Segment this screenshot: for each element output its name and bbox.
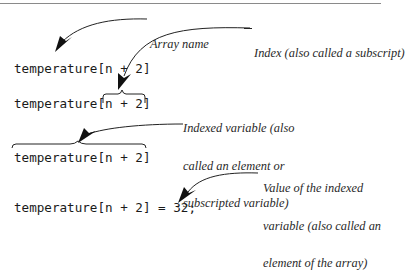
label-index: Index (also called a subscript) xyxy=(254,22,405,72)
array-name-arrow-icon xyxy=(55,19,147,52)
code-line-array-name: temperature[n + 2] xyxy=(14,62,150,76)
code-line-assignment: temperature[n + 2] = 32; xyxy=(14,201,196,215)
code-line-indexed-variable: temperature[n + 2] xyxy=(14,151,150,165)
label-line: Indexed variable (also xyxy=(183,122,294,135)
indexed-variable-arrow-icon xyxy=(78,124,183,143)
label-line: element of the array) xyxy=(263,257,381,270)
indexed-variable-brace-icon xyxy=(12,141,146,148)
label-line: Index (also called a subscript) xyxy=(254,47,405,60)
label-array-name: Array name xyxy=(150,13,209,63)
index-leader-line xyxy=(244,28,252,29)
label-value: Value of the indexed variable (also call… xyxy=(263,157,381,274)
label-line: Value of the indexed xyxy=(263,182,381,195)
code-line-index: temperature[n + 2] xyxy=(14,97,150,111)
label-line: Array name xyxy=(150,38,209,51)
label-line: variable (also called an xyxy=(263,220,381,233)
